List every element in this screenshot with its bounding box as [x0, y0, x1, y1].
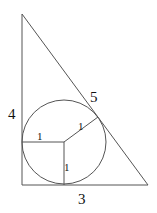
triangle-incircle-diagram: 4 3 5 1 1 1 — [0, 0, 157, 213]
label-radius-to-hypotenuse: 1 — [78, 120, 84, 132]
label-radius-down: 1 — [64, 161, 70, 173]
label-horizontal-leg: 3 — [78, 191, 86, 207]
hypotenuse — [22, 14, 148, 185]
label-radius-left: 1 — [37, 130, 43, 142]
label-vertical-leg: 4 — [8, 106, 16, 122]
label-hypotenuse: 5 — [90, 89, 98, 105]
